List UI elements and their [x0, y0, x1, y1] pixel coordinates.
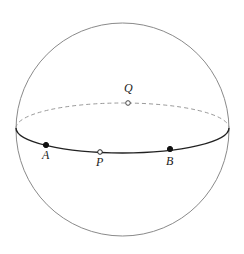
equator-back-dashed: [16, 103, 229, 128]
point-Q: Q: [124, 81, 133, 105]
point-B: B: [166, 146, 174, 168]
point-Q-marker: [126, 101, 131, 106]
point-B-label: B: [166, 154, 174, 168]
point-A-label: A: [41, 148, 50, 162]
point-B-marker: [167, 146, 172, 151]
point-P-label: P: [95, 155, 104, 169]
point-Q-label: Q: [124, 81, 133, 95]
point-P-marker: [98, 150, 103, 155]
point-A: A: [41, 142, 50, 162]
sphere-diagram: A P B Q: [0, 0, 244, 254]
sphere-outline: [16, 23, 229, 236]
point-A-marker: [43, 142, 48, 147]
diagram-svg: A P B Q: [0, 0, 244, 254]
